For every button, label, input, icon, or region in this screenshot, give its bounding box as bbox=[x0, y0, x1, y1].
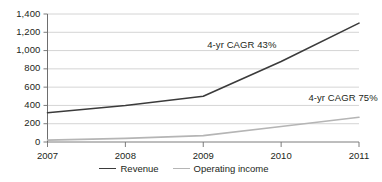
legend-label: Operating income bbox=[194, 163, 269, 174]
x-tick-label: 2011 bbox=[333, 150, 382, 161]
x-tick-label: 2008 bbox=[99, 150, 151, 161]
legend-line-swatch-icon bbox=[173, 168, 190, 169]
series-line-operating-income bbox=[48, 117, 360, 140]
legend-item-operating-income[interactable]: Operating income bbox=[173, 163, 269, 174]
legend-label: Revenue bbox=[120, 163, 158, 174]
cagr-annotation: 4-yr CAGR 43% bbox=[207, 39, 276, 50]
y-tick-label: 600 bbox=[0, 81, 41, 92]
y-tick-label: 0 bbox=[0, 136, 41, 147]
axis-ticks bbox=[44, 14, 360, 147]
y-tick-label: 1,200 bbox=[0, 26, 41, 37]
y-tick-label: 1,400 bbox=[0, 8, 41, 19]
data-series bbox=[48, 23, 360, 140]
y-tick-label: 800 bbox=[0, 62, 41, 73]
legend-item-revenue[interactable]: Revenue bbox=[99, 163, 158, 174]
x-tick-label: 2007 bbox=[22, 150, 74, 161]
legend-line-swatch-icon bbox=[99, 168, 116, 169]
x-tick-label: 2010 bbox=[255, 150, 307, 161]
gridlines bbox=[48, 14, 360, 124]
y-tick-label: 1,000 bbox=[0, 44, 41, 55]
chart-legend: RevenueOperating income bbox=[0, 163, 368, 174]
y-tick-label: 400 bbox=[0, 99, 41, 110]
x-tick-label: 2009 bbox=[177, 150, 229, 161]
cagr-annotation: 4-yr CAGR 75% bbox=[308, 92, 377, 103]
y-tick-label: 200 bbox=[0, 117, 41, 128]
